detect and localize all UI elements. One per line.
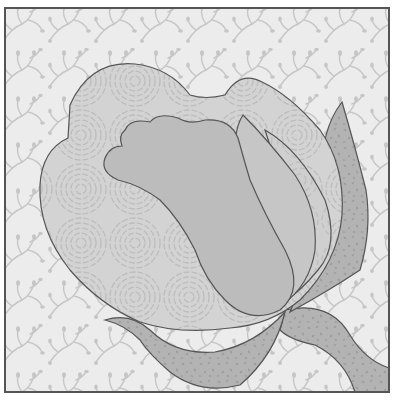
quilt-block-canvas: Rose bud quilt block (0, 0, 394, 405)
rose-quilt-illustration (0, 0, 394, 405)
